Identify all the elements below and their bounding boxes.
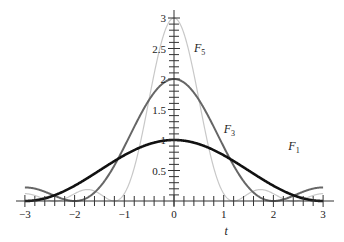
curve-label-f1: F1 xyxy=(287,139,299,155)
x-tick-label: −1 xyxy=(118,208,130,220)
x-tick-label: −3 xyxy=(19,208,31,220)
y-tick-label: 1 xyxy=(161,134,167,146)
x-tick-label: 0 xyxy=(171,208,177,220)
x-axis-label: t xyxy=(225,224,229,238)
axes xyxy=(16,10,334,207)
x-tick-label: 2 xyxy=(271,208,277,220)
curve-label-f3: F3 xyxy=(223,122,235,138)
y-tick-label: 0.5 xyxy=(152,165,166,177)
y-tick-label: 3 xyxy=(161,12,167,24)
x-tick-label: −2 xyxy=(69,208,81,220)
y-tick-label: 2 xyxy=(161,73,167,85)
y-tick-label: 2.5 xyxy=(152,43,166,55)
x-tick-label: 3 xyxy=(320,208,326,220)
y-tick-label: 1.5 xyxy=(152,104,166,116)
chart: −3−2−101230.511.522.53tF5F3F1 xyxy=(0,0,344,242)
x-tick-label: 1 xyxy=(221,208,227,220)
curve-label-f5: F5 xyxy=(193,41,205,57)
